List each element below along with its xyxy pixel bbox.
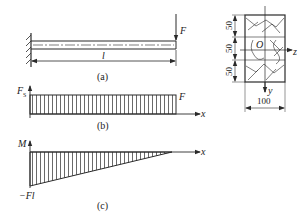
caption-c: (c) <box>97 201 108 211</box>
origin-label: O <box>256 40 263 50</box>
shear-force-diagram <box>30 86 200 118</box>
z-axis-label: z <box>293 47 297 57</box>
moment-axis-label: M <box>18 139 26 149</box>
caption-b: (b) <box>97 121 109 131</box>
dimension-label-middle: 50 <box>225 44 234 53</box>
cross-section-axes <box>240 6 292 92</box>
width-dimension-label: 100 <box>257 97 271 106</box>
length-label: l <box>102 51 105 61</box>
caption-a: (a) <box>97 72 108 82</box>
moment-value-label: −Fl <box>19 191 35 201</box>
fixed-support-wall <box>26 33 31 67</box>
bending-moment-diagram <box>30 141 200 188</box>
force-label: F <box>180 26 186 36</box>
moment-x-axis-label: x <box>201 147 205 157</box>
shear-value-label: F <box>179 92 185 102</box>
shear-axis-label: FS <box>17 86 26 98</box>
dimension-label-bottom: 50 <box>225 67 234 76</box>
dimension-label-top: 50 <box>225 21 234 30</box>
beam-diagram-canvas <box>0 0 308 222</box>
shear-axis-subscript: S <box>23 92 26 98</box>
shear-x-axis-label: x <box>201 109 205 119</box>
cantilever-beam <box>31 41 176 49</box>
y-axis-label: y <box>268 86 272 96</box>
